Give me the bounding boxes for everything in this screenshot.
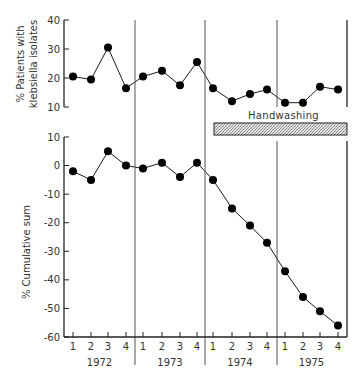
- bottom-ytick-label: -50: [44, 303, 60, 314]
- top-data-point: [104, 44, 112, 52]
- quarter-label: 2: [229, 341, 235, 352]
- bottom-data-point: [176, 173, 184, 181]
- bottom-data-point: [209, 176, 217, 184]
- quarter-label: 2: [159, 341, 165, 352]
- quarter-label: 3: [317, 341, 323, 352]
- bottom-ytick-label: -60: [44, 332, 60, 343]
- bottom-panel: 100-10-20-30-40-50-60: [44, 132, 342, 343]
- bottom-ytick-label: -20: [44, 217, 60, 228]
- bottom-ylabel: % Cumulative sum: [21, 205, 32, 299]
- top-data-point: [158, 67, 166, 75]
- bottom-data-point: [122, 162, 130, 170]
- top-data-point: [334, 86, 342, 94]
- top-data-point: [69, 73, 77, 81]
- bottom-data-point: [281, 267, 289, 275]
- bottom-data-point: [158, 159, 166, 167]
- top-data-point: [193, 58, 201, 66]
- bottom-data-point: [263, 239, 271, 247]
- bottom-ytick-label: 0: [54, 160, 60, 171]
- quarter-label: 2: [88, 341, 94, 352]
- handwashing-annotation: Handwashing: [214, 110, 347, 135]
- quarter-label: 3: [177, 341, 183, 352]
- bottom-data-point: [193, 159, 201, 167]
- year-label: 1975: [299, 357, 324, 368]
- top-ytick-label: 30: [47, 44, 60, 55]
- bottom-data-point: [228, 204, 236, 212]
- bottom-data-point: [139, 164, 147, 172]
- top-ytick-label: 40: [47, 15, 60, 26]
- quarter-label: 4: [123, 341, 129, 352]
- top-data-point: [122, 84, 130, 92]
- top-ytick-label: 10: [47, 102, 60, 113]
- top-data-point: [87, 76, 95, 84]
- quarter-label: 1: [140, 341, 146, 352]
- bottom-data-point: [69, 167, 77, 175]
- top-ylabel-line2: klebsiella isolates: [28, 20, 39, 108]
- quarter-label: 1: [282, 341, 288, 352]
- klebsiella-chart: 10203040 100-10-20-30-40-50-60 123412341…: [0, 0, 363, 381]
- top-data-point: [316, 83, 324, 91]
- bottom-ytick-label: -40: [44, 274, 60, 285]
- quarter-label: 4: [264, 341, 270, 352]
- bottom-ytick-label: 10: [47, 132, 60, 143]
- quarter-label: 2: [300, 341, 306, 352]
- quarter-label: 3: [105, 341, 111, 352]
- handwashing-label: Handwashing: [248, 110, 319, 121]
- quarter-label: 4: [335, 341, 341, 352]
- year-label: 1973: [157, 357, 182, 368]
- bottom-data-point: [246, 222, 254, 230]
- top-data-point: [176, 81, 184, 89]
- year-dividers: [135, 20, 347, 365]
- quarter-label: 4: [194, 341, 200, 352]
- quarter-label: 1: [210, 341, 216, 352]
- bottom-data-point: [334, 322, 342, 330]
- top-data-point: [263, 86, 271, 94]
- top-ylabel-line1: % Patients with: [15, 25, 26, 102]
- year-label: 1974: [227, 357, 252, 368]
- quarter-label: 1: [70, 341, 76, 352]
- top-data-point: [246, 90, 254, 98]
- bottom-data-point: [87, 176, 95, 184]
- bottom-data-point: [299, 293, 307, 301]
- year-label: 1972: [87, 357, 112, 368]
- bottom-data-point: [316, 307, 324, 315]
- bottom-ytick-label: -10: [44, 189, 60, 200]
- top-data-point: [139, 73, 147, 81]
- top-ytick-label: 20: [47, 73, 60, 84]
- top-data-point: [281, 99, 289, 107]
- top-data-point: [209, 84, 217, 92]
- bottom-data-point: [104, 147, 112, 155]
- handwashing-bar: [214, 123, 347, 135]
- top-data-point: [228, 97, 236, 105]
- quarter-label: 3: [247, 341, 253, 352]
- top-panel: 10203040: [47, 15, 342, 113]
- bottom-ytick-label: -30: [44, 246, 60, 257]
- top-data-point: [299, 99, 307, 107]
